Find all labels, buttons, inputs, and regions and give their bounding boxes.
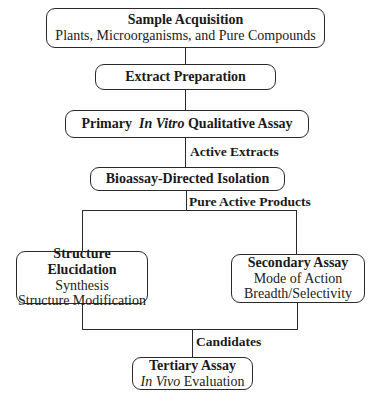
connector-branch-right [296, 210, 297, 254]
edge-label-pure-active-products: Pure Active Products [189, 194, 311, 210]
title-italic: In Vitro [139, 116, 185, 131]
line-suffix: Evaluation [184, 374, 245, 389]
node-line: Breadth/Selectivity [244, 286, 352, 302]
node-title: Structure Elucidation [17, 246, 147, 277]
node-primary-assay: Primary In Vitro Qualitative Assay [65, 110, 309, 138]
node-line: Synthesis [55, 278, 109, 294]
node-title: Secondary Assay [248, 255, 349, 271]
connector-bioassay-branch [186, 190, 187, 210]
connector-merge-horizontal [82, 329, 298, 330]
node-line: Mode of Action [254, 271, 343, 287]
node-sample-acquisition: Sample Acquisition Plants, Microorganism… [46, 8, 325, 48]
line-italic: In Vivo [141, 374, 181, 389]
title-prefix: Primary [81, 116, 132, 131]
connector-primary-bioassay [185, 137, 186, 167]
edge-label-active-extracts: Active Extracts [190, 144, 279, 160]
node-secondary-assay: Secondary Assay Mode of Action Breadth/S… [231, 254, 365, 303]
connector-sample-extract [185, 47, 186, 64]
node-title: Extract Preparation [125, 69, 246, 85]
edge-label-candidates: Candidates [196, 334, 261, 350]
node-title: Primary In Vitro Qualitative Assay [81, 116, 292, 132]
node-extract-preparation: Extract Preparation [95, 64, 276, 90]
node-title: Bioassay-Directed Isolation [106, 171, 269, 187]
node-bioassay-isolation: Bioassay-Directed Isolation [90, 167, 285, 191]
title-suffix: Qualitative Assay [188, 116, 293, 131]
node-line: In Vivo Evaluation [141, 374, 245, 390]
node-subtitle: Plants, Microorganisms, and Pure Compoun… [55, 28, 315, 44]
node-tertiary-assay: Tertiary Assay In Vivo Evaluation [132, 357, 253, 390]
node-line: Structure Modification [18, 293, 146, 309]
connector-merge-tertiary [192, 329, 193, 357]
connector-secondary-merge [297, 302, 298, 330]
connector-branch-left [82, 210, 83, 251]
node-title: Sample Acquisition [128, 12, 244, 28]
connector-branch-horizontal [82, 210, 297, 211]
connector-extract-primary [185, 89, 186, 110]
node-title: Tertiary Assay [149, 358, 236, 374]
node-structure-elucidation: Structure Elucidation Synthesis Structur… [16, 251, 148, 304]
